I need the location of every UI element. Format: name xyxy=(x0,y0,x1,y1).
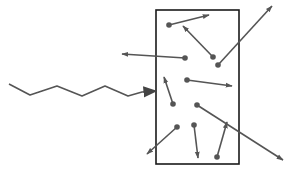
target-box xyxy=(156,10,239,164)
particle-track xyxy=(122,54,188,61)
particle-dot xyxy=(214,154,220,160)
scattering-diagram xyxy=(0,0,290,178)
scatter-arrow xyxy=(183,26,213,57)
particle-track xyxy=(214,122,227,160)
particle-dot xyxy=(170,101,176,107)
scatter-arrow xyxy=(164,77,173,104)
particle-track xyxy=(164,77,176,107)
scatter-arrow xyxy=(169,15,209,25)
particle-dot xyxy=(191,122,197,128)
particle-dot xyxy=(166,22,172,28)
scatter-arrow xyxy=(122,54,185,58)
particle-track xyxy=(184,77,232,86)
particle-dot xyxy=(174,124,180,130)
particle-track xyxy=(147,124,180,154)
scatter-arrow xyxy=(147,127,177,154)
particle-track xyxy=(215,6,272,68)
particle-dot xyxy=(210,54,216,60)
scatter-arrow xyxy=(187,80,232,86)
diagram-svg xyxy=(0,0,290,178)
particle-dot xyxy=(194,102,200,108)
scatter-arrow xyxy=(194,125,198,158)
scatter-arrow xyxy=(197,105,283,160)
particle-dot xyxy=(215,62,221,68)
particle-track xyxy=(191,122,198,158)
scattered-particles xyxy=(122,6,283,160)
scatter-arrow xyxy=(217,122,227,157)
particle-dot xyxy=(182,55,188,61)
particle-track xyxy=(166,15,209,28)
scatter-arrow xyxy=(218,6,272,65)
incoming-wave-arrow xyxy=(9,84,156,96)
particle-dot xyxy=(184,77,190,83)
particle-track xyxy=(183,26,216,60)
